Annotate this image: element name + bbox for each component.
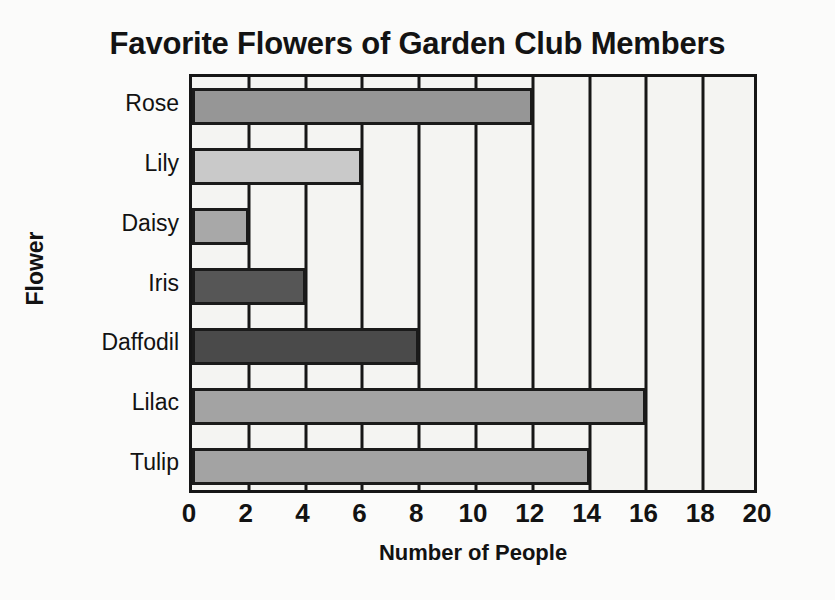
y-tick-label-tulip: Tulip xyxy=(130,451,179,474)
bar-daffodil xyxy=(192,328,419,365)
y-tick-label-daisy: Daisy xyxy=(121,212,179,235)
y-tick-label-daffodil: Daffodil xyxy=(101,331,179,354)
plot-area xyxy=(189,74,757,493)
x-tick-label-16: 16 xyxy=(629,500,658,526)
x-tick-label-14: 14 xyxy=(572,500,601,526)
x-tick-label-6: 6 xyxy=(352,500,366,526)
y-tick-label-lily: Lily xyxy=(144,152,179,175)
bar-daisy xyxy=(192,208,249,245)
bars-layer xyxy=(192,77,754,490)
bar-lily xyxy=(192,148,362,185)
x-tick-label-18: 18 xyxy=(686,500,715,526)
x-axis-title: Number of People xyxy=(189,540,757,566)
bar-chart-figure: Favorite Flowers of Garden Club Members … xyxy=(0,0,835,600)
x-axis-tick-labels: 02468101214161820 xyxy=(189,500,757,534)
x-tick-label-2: 2 xyxy=(239,500,253,526)
x-tick-label-4: 4 xyxy=(295,500,309,526)
bar-rose xyxy=(192,88,533,125)
x-tick-label-8: 8 xyxy=(409,500,423,526)
chart-title: Favorite Flowers of Garden Club Members xyxy=(0,26,835,62)
bar-tulip xyxy=(192,448,590,485)
x-tick-label-12: 12 xyxy=(515,500,544,526)
y-tick-label-lilac: Lilac xyxy=(132,391,179,414)
bar-iris xyxy=(192,268,306,305)
bar-lilac xyxy=(192,388,646,425)
x-tick-label-0: 0 xyxy=(182,500,196,526)
y-axis-title: Flower xyxy=(22,209,49,329)
x-tick-label-10: 10 xyxy=(459,500,488,526)
y-tick-label-iris: Iris xyxy=(148,272,179,295)
x-tick-label-20: 20 xyxy=(743,500,772,526)
y-tick-label-rose: Rose xyxy=(125,92,179,115)
